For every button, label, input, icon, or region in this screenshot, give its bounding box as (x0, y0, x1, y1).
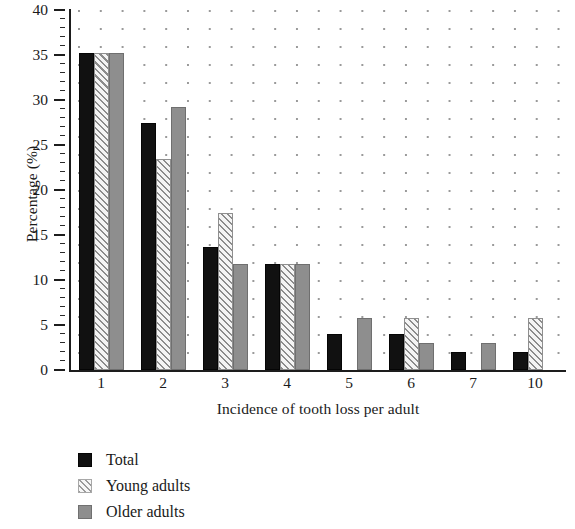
legend-item-label: Total (106, 452, 139, 468)
young-adults-bar (94, 53, 109, 370)
y-axis-minor-tick (60, 333, 65, 334)
y-axis-major-tick (54, 234, 65, 235)
y-axis-minor-tick (60, 342, 65, 343)
bar-group (513, 10, 558, 370)
x-axis-line (69, 370, 566, 372)
y-axis-tick-label: 35 (33, 47, 49, 63)
y-axis-minor-tick (60, 360, 65, 361)
y-axis-minor-tick (60, 243, 65, 244)
y-axis-minor-tick (60, 162, 65, 163)
older-adults-bar (481, 343, 496, 370)
y-axis-tick-label: 40 (33, 2, 49, 18)
y-axis-minor-tick (60, 90, 65, 91)
y-axis-minor-tick (60, 180, 65, 181)
y-axis-minor-tick (60, 198, 65, 199)
y-axis-minor-tick (60, 72, 65, 73)
y-axis-minor-tick (60, 108, 65, 109)
y-axis-minor-tick (60, 18, 65, 19)
solid-black-swatch (78, 453, 92, 467)
bar-group (79, 10, 124, 370)
young-adults-bar (218, 213, 233, 371)
bar-group (389, 10, 434, 370)
y-axis-major-tick (54, 144, 65, 145)
older-adults-bar (419, 343, 434, 370)
total-bar (513, 352, 528, 370)
legend-item-label: Young adults (106, 478, 190, 494)
y-axis-minor-tick (60, 153, 65, 154)
y-axis-tick-label: 0 (40, 362, 48, 378)
x-axis-tick-label: 6 (407, 374, 415, 392)
bar-layer (70, 10, 566, 370)
y-axis-tick-label: 25 (33, 137, 49, 153)
plot-area (70, 10, 566, 370)
older-adults-bar (109, 53, 124, 370)
bar-group (141, 10, 186, 370)
y-axis-minor-tick (60, 135, 65, 136)
y-axis-minor-tick (60, 81, 65, 82)
y-axis-minor-tick (60, 270, 65, 271)
legend-item: Older adults (78, 499, 408, 525)
y-axis-tick-label: 30 (33, 92, 49, 108)
y-axis-minor-tick (60, 171, 65, 172)
y-axis-minor-tick (60, 225, 65, 226)
older-adults-bar (357, 318, 372, 370)
x-axis-tick-label: 4 (283, 374, 291, 392)
total-bar (141, 123, 156, 371)
x-axis-title: Incidence of tooth loss per adult (70, 400, 566, 418)
x-axis-tick-label: 1 (97, 374, 105, 392)
older-adults-bar (233, 264, 248, 370)
y-axis-tick-layer: 0510152025303540 (0, 0, 70, 380)
young-adults-bar (280, 264, 295, 370)
total-bar (203, 247, 218, 370)
bar-group (203, 10, 248, 370)
y-axis-minor-tick (60, 252, 65, 253)
x-axis-tick-label: 7 (469, 374, 477, 392)
young-adults-bar (404, 318, 419, 370)
y-axis-minor-tick (60, 36, 65, 37)
chart-legend: TotalYoung adultsOlder adults (78, 447, 408, 525)
total-bar (327, 334, 342, 370)
y-axis-minor-tick (60, 288, 65, 289)
older-adults-bar (295, 264, 310, 370)
bar-group (327, 10, 372, 370)
bar-chart-figure: Percentage (%) 0510152025303540 12345671… (0, 0, 575, 529)
legend-item-label: Older adults (106, 504, 185, 520)
y-axis-minor-tick (60, 117, 65, 118)
young-adults-bar (156, 159, 171, 370)
y-axis-major-tick (54, 324, 65, 325)
total-bar (451, 352, 466, 370)
y-axis-minor-tick (60, 126, 65, 127)
bar-group (265, 10, 310, 370)
y-axis-tick-label: 20 (33, 182, 49, 198)
y-axis-minor-tick (60, 207, 65, 208)
y-axis-tick-label: 5 (40, 317, 48, 333)
x-axis-tick-layer: 123456710 (70, 374, 566, 400)
total-bar (265, 264, 280, 370)
y-axis-major-tick (54, 9, 65, 10)
y-axis-minor-tick (60, 297, 65, 298)
legend-item: Total (78, 447, 408, 473)
y-axis-major-tick (54, 369, 65, 370)
y-axis-minor-tick (60, 63, 65, 64)
y-axis-major-tick (54, 279, 65, 280)
x-axis-tick-label: 5 (345, 374, 353, 392)
young-adults-bar (528, 318, 543, 370)
y-axis-minor-tick (60, 315, 65, 316)
x-axis-tick-label: 2 (159, 374, 167, 392)
bar-group (451, 10, 496, 370)
older-adults-bar (171, 107, 186, 370)
y-axis-tick-label: 10 (33, 272, 49, 288)
x-axis-tick-label: 3 (221, 374, 229, 392)
solid-gray-swatch (78, 505, 92, 519)
y-axis-minor-tick (60, 45, 65, 46)
x-axis-tick-label: 10 (527, 374, 543, 392)
y-axis-major-tick (54, 99, 65, 100)
y-axis-tick-label: 15 (33, 227, 49, 243)
y-axis-minor-tick (60, 27, 65, 28)
y-axis-minor-tick (60, 351, 65, 352)
y-axis-major-tick (54, 54, 65, 55)
y-axis-minor-tick (60, 216, 65, 217)
y-axis-minor-tick (60, 306, 65, 307)
y-axis-minor-tick (60, 261, 65, 262)
total-bar (79, 53, 94, 370)
